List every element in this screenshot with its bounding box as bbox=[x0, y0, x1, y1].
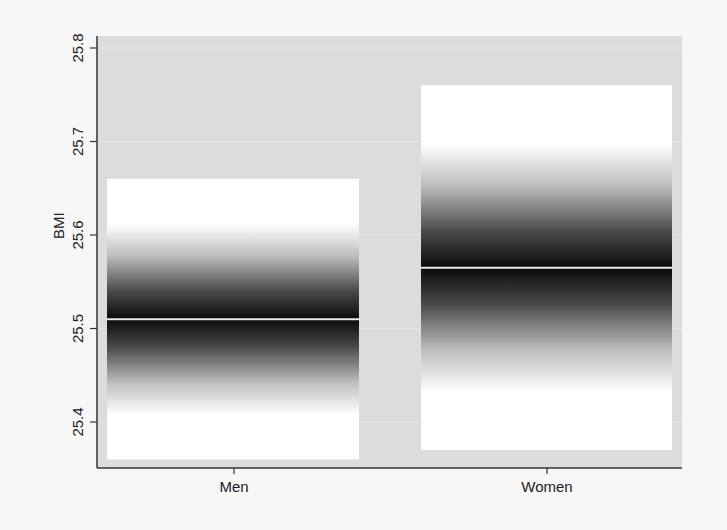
x-tick-label-women: Women bbox=[521, 478, 572, 495]
y-tick-label: 25.6 bbox=[69, 220, 86, 249]
y-tick-label: 25.4 bbox=[69, 407, 86, 436]
y-axis-ticks: 25.425.525.625.725.8 bbox=[69, 33, 97, 436]
y-tick-label: 25.5 bbox=[69, 314, 86, 343]
bmi-chart: 25.425.525.625.725.8 MenWomen BMI bbox=[0, 0, 727, 530]
y-axis-title: BMI bbox=[50, 212, 67, 239]
x-axis-ticks: MenWomen bbox=[219, 468, 572, 495]
y-tick-label: 25.7 bbox=[69, 127, 86, 156]
bar-men bbox=[107, 179, 359, 460]
x-tick-label-men: Men bbox=[219, 478, 248, 495]
y-tick-label: 25.8 bbox=[69, 33, 86, 62]
bar-women bbox=[421, 85, 672, 450]
